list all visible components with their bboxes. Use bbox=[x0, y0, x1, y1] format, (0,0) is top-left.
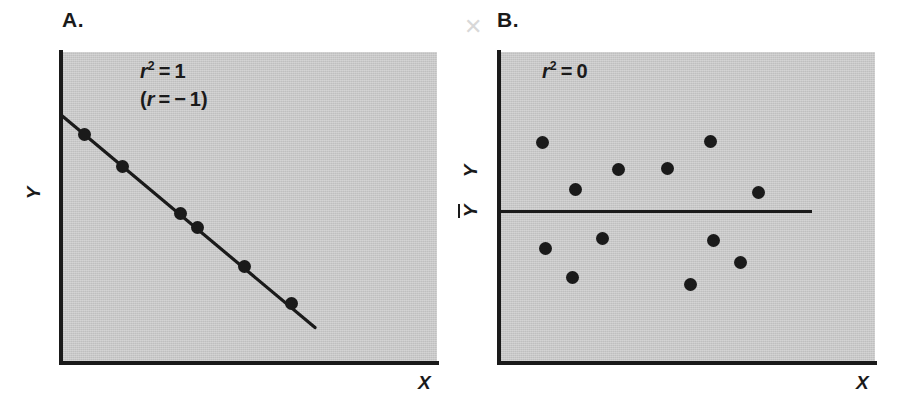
panel-b-label: B. bbox=[497, 8, 519, 32]
r-symbol: r bbox=[140, 60, 148, 82]
data-point bbox=[238, 260, 251, 273]
data-point bbox=[704, 135, 717, 148]
r-squared-value: = 1 bbox=[155, 60, 186, 82]
data-point bbox=[191, 221, 204, 234]
data-point bbox=[539, 242, 552, 255]
data-point bbox=[285, 297, 298, 310]
data-point bbox=[174, 207, 187, 220]
r-symbol: r bbox=[542, 60, 550, 82]
panel-b-x-axis bbox=[497, 361, 877, 365]
panel-a: A. Y X r2 = 1 (r = − 1) bbox=[0, 0, 457, 411]
panel-a-regression-line bbox=[0, 0, 457, 411]
panel-a-annotation-line-2: (r = − 1) bbox=[140, 86, 208, 114]
panel-b-x-axis-title: X bbox=[856, 372, 869, 394]
panel-b-y-axis-title: Y bbox=[460, 159, 482, 183]
panel-a-annotation-line-1: r2 = 1 bbox=[140, 58, 208, 86]
panel-b: ✕ B. Y Y X r2 = 0 bbox=[457, 0, 914, 411]
panel-b-mean-line-title: Y bbox=[460, 199, 482, 223]
r-exponent: 2 bbox=[148, 59, 155, 73]
scan-artifact-mark: ✕ bbox=[464, 14, 482, 40]
data-point bbox=[661, 162, 674, 175]
figure-root: A. Y X r2 = 1 (r = − 1) ✕ B. bbox=[0, 0, 914, 411]
data-point bbox=[684, 278, 697, 291]
data-point bbox=[78, 128, 91, 141]
data-point bbox=[734, 256, 747, 269]
panel-b-mean-line bbox=[499, 210, 812, 213]
panel-a-annotation: r2 = 1 (r = − 1) bbox=[140, 58, 208, 113]
data-point bbox=[569, 183, 582, 196]
panel-b-plot-area bbox=[501, 52, 875, 363]
data-point bbox=[566, 271, 579, 284]
r-exponent: 2 bbox=[550, 59, 557, 73]
data-point bbox=[116, 160, 129, 173]
panel-b-annotation: r2 = 0 bbox=[542, 58, 588, 86]
y-bar-symbol: Y bbox=[460, 205, 482, 218]
r-squared-value: = 0 bbox=[557, 60, 588, 82]
data-point bbox=[536, 136, 549, 149]
data-point bbox=[596, 232, 609, 245]
data-point bbox=[612, 163, 625, 176]
panel-b-annotation-line-1: r2 = 0 bbox=[542, 58, 588, 86]
r-value: = − 1) bbox=[154, 88, 207, 110]
data-point bbox=[707, 234, 720, 247]
paren-open: ( bbox=[140, 88, 147, 110]
data-point bbox=[752, 186, 765, 199]
panel-b-y-axis bbox=[497, 50, 501, 365]
